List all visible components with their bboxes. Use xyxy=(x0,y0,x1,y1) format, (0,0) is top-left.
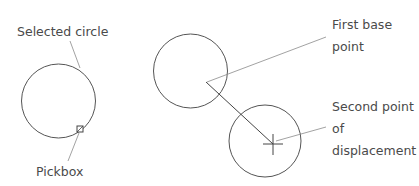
second-point-label-line1: Second point xyxy=(332,99,414,114)
second-point-label-line3: displacement xyxy=(332,143,416,158)
selected-circle xyxy=(22,64,96,138)
original-circle xyxy=(154,34,228,108)
pickbox-leader xyxy=(68,133,79,161)
pickbox-label: Pickbox xyxy=(36,164,83,179)
first-base-point-label-line1: First base xyxy=(332,17,392,32)
first-base-point-leader xyxy=(207,37,326,82)
moved-circle xyxy=(229,105,301,177)
selected-circle-label: Selected circle xyxy=(17,24,109,39)
second-point-label-line2: of xyxy=(332,121,345,136)
displacement-line xyxy=(206,82,273,144)
move-diagram: Selected circle Pickbox First base point… xyxy=(0,0,419,186)
selected-circle-leader xyxy=(70,41,80,68)
first-base-point-label-line2: point xyxy=(332,39,364,54)
